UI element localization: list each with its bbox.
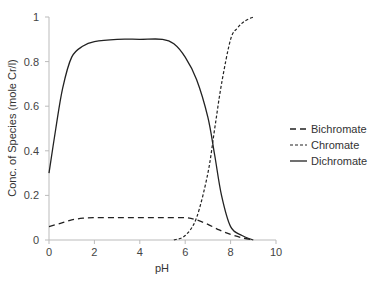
x-tick-label: 2	[91, 246, 97, 258]
legend: BichromateChromateDichromate	[290, 123, 367, 167]
x-ticks: 0246810	[46, 240, 282, 258]
x-axis-title: pH	[155, 262, 169, 274]
y-tick-label: 0.8	[24, 56, 39, 68]
y-tick-label: 0.2	[24, 189, 39, 201]
legend-item-chromate: Chromate	[290, 139, 359, 151]
y-ticks: 00.20.40.60.81	[24, 11, 49, 246]
series-lines	[49, 17, 253, 240]
x-tick-label: 6	[182, 246, 188, 258]
legend-label: Dichromate	[311, 155, 367, 167]
legend-label: Chromate	[311, 139, 359, 151]
series-bichromate-line	[49, 218, 253, 240]
y-tick-label: 0.4	[24, 145, 39, 157]
chart: 00.20.40.60.81 0246810 pH Conc. of Speci…	[0, 0, 375, 282]
legend-label: Bichromate	[311, 123, 367, 135]
x-tick-label: 8	[228, 246, 234, 258]
x-tick-label: 4	[137, 246, 143, 258]
series-chromate-line	[174, 17, 253, 240]
y-tick-label: 0.6	[24, 100, 39, 112]
legend-item-dichromate: Dichromate	[290, 155, 367, 167]
series-dichromate-line	[49, 39, 253, 240]
x-tick-label: 0	[46, 246, 52, 258]
legend-item-bichromate: Bichromate	[290, 123, 367, 135]
y-axis-title: Conc. of Species (mole Cr/l)	[6, 59, 18, 197]
x-tick-label: 10	[270, 246, 282, 258]
plot-area: 00.20.40.60.81 0246810	[24, 11, 282, 258]
y-tick-label: 1	[33, 11, 39, 23]
y-tick-label: 0	[33, 234, 39, 246]
